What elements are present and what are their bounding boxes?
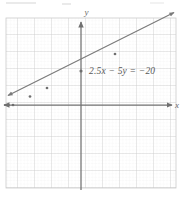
- equation-label: 2.5x − 5y = −20: [89, 66, 155, 76]
- coordinate-graph-figure: y x 2.5x − 5y = −20: [0, 0, 182, 202]
- graph-canvas: y x 2.5x − 5y = −20: [0, 0, 182, 202]
- major-gridlines: [6, 18, 176, 188]
- line-point-marker: [29, 95, 32, 98]
- line-point-marker: [114, 53, 117, 56]
- line-point-marker: [12, 104, 15, 107]
- line-point-marker: [46, 87, 49, 90]
- y-axis-label: y: [84, 7, 89, 17]
- x-axis-label: x: [174, 100, 179, 110]
- line-point-marker: [79, 69, 82, 72]
- grid-group: [6, 18, 176, 188]
